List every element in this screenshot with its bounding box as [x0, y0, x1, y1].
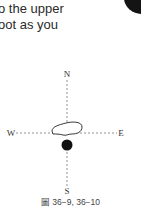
foot-outline-icon	[52, 122, 82, 135]
west-label: W	[7, 128, 16, 138]
north-label: N	[64, 69, 71, 79]
south-label: S	[64, 186, 69, 196]
compass-foot-diagram: N S W E	[0, 0, 141, 209]
position-dot-icon	[62, 140, 73, 151]
east-label: E	[118, 128, 124, 138]
figure-caption: 圖 36−9, 36−10	[0, 197, 141, 208]
